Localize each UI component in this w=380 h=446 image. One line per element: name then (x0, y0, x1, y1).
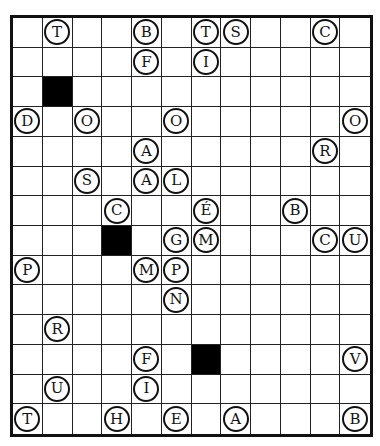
grid-cell[interactable] (162, 77, 192, 107)
grid-cell[interactable] (221, 137, 251, 167)
grid-cell[interactable] (251, 315, 281, 345)
grid-cell[interactable] (281, 18, 311, 48)
grid-cell[interactable] (311, 375, 341, 405)
grid-cell[interactable] (43, 285, 73, 315)
grid-cell[interactable]: T (13, 404, 43, 434)
grid-cell[interactable] (251, 256, 281, 286)
grid-cell[interactable] (221, 77, 251, 107)
grid-cell[interactable] (73, 404, 103, 434)
grid-cell[interactable] (281, 375, 311, 405)
grid-cell[interactable] (132, 404, 162, 434)
grid-cell[interactable] (221, 226, 251, 256)
grid-cell[interactable] (281, 404, 311, 434)
grid-cell[interactable]: B (281, 196, 311, 226)
grid-cell[interactable] (102, 137, 132, 167)
grid-cell[interactable]: I (192, 48, 222, 78)
grid-cell[interactable] (192, 375, 222, 405)
grid-cell[interactable] (340, 285, 370, 315)
grid-cell[interactable]: I (132, 375, 162, 405)
grid-cell[interactable] (73, 315, 103, 345)
grid-cell[interactable] (221, 48, 251, 78)
grid-cell[interactable] (43, 137, 73, 167)
grid-cell[interactable] (13, 345, 43, 375)
grid-cell[interactable] (251, 226, 281, 256)
grid-cell[interactable]: M (132, 256, 162, 286)
grid-cell[interactable] (73, 18, 103, 48)
grid-cell[interactable]: V (340, 345, 370, 375)
grid-cell[interactable] (162, 48, 192, 78)
grid-cell[interactable] (281, 315, 311, 345)
grid-cell[interactable] (221, 107, 251, 137)
grid-cell[interactable] (73, 77, 103, 107)
grid-cell[interactable] (311, 404, 341, 434)
grid-cell[interactable]: G (162, 226, 192, 256)
grid-cell[interactable]: E (162, 404, 192, 434)
grid-cell[interactable]: S (73, 167, 103, 197)
grid-cell[interactable]: H (102, 404, 132, 434)
grid-cell[interactable]: F (132, 48, 162, 78)
grid-cell[interactable] (221, 196, 251, 226)
grid-cell[interactable] (281, 107, 311, 137)
grid-cell[interactable]: P (13, 256, 43, 286)
grid-cell[interactable] (73, 285, 103, 315)
grid-cell[interactable] (132, 285, 162, 315)
grid-cell[interactable] (311, 196, 341, 226)
grid-cell[interactable]: C (311, 18, 341, 48)
grid-cell[interactable] (311, 167, 341, 197)
grid-cell[interactable]: B (340, 404, 370, 434)
grid-cell[interactable] (311, 315, 341, 345)
grid-cell[interactable] (43, 404, 73, 434)
grid-cell[interactable]: N (162, 285, 192, 315)
grid-cell[interactable] (132, 107, 162, 137)
grid-cell[interactable] (221, 167, 251, 197)
grid-cell[interactable] (221, 285, 251, 315)
grid-cell[interactable] (251, 345, 281, 375)
grid-cell[interactable]: O (340, 107, 370, 137)
grid-cell[interactable] (281, 48, 311, 78)
grid-cell[interactable] (132, 226, 162, 256)
grid-cell[interactable] (162, 137, 192, 167)
grid-cell[interactable] (192, 77, 222, 107)
grid-cell[interactable]: O (73, 107, 103, 137)
grid-cell[interactable] (221, 375, 251, 405)
grid-cell[interactable] (102, 167, 132, 197)
grid-cell[interactable] (251, 137, 281, 167)
grid-cell[interactable] (192, 404, 222, 434)
grid-cell[interactable] (221, 315, 251, 345)
grid-cell[interactable]: D (13, 107, 43, 137)
grid-cell[interactable] (132, 196, 162, 226)
grid-cell[interactable]: A (221, 404, 251, 434)
grid-cell[interactable] (102, 18, 132, 48)
grid-cell[interactable] (311, 107, 341, 137)
grid-cell[interactable]: A (132, 137, 162, 167)
grid-cell[interactable]: P (162, 256, 192, 286)
grid-cell[interactable] (311, 77, 341, 107)
grid-cell[interactable] (311, 256, 341, 286)
grid-cell[interactable] (102, 315, 132, 345)
grid-cell[interactable] (340, 18, 370, 48)
grid-cell[interactable] (192, 285, 222, 315)
grid-cell[interactable] (311, 285, 341, 315)
grid-cell[interactable]: C (311, 226, 341, 256)
grid-cell[interactable] (102, 285, 132, 315)
grid-cell[interactable] (340, 48, 370, 78)
grid-cell[interactable] (13, 77, 43, 107)
grid-cell[interactable] (13, 137, 43, 167)
grid-cell[interactable] (73, 48, 103, 78)
grid-cell[interactable] (102, 77, 132, 107)
grid-cell[interactable] (311, 345, 341, 375)
grid-cell[interactable]: B (132, 18, 162, 48)
grid-cell[interactable] (281, 167, 311, 197)
grid-cell[interactable] (73, 226, 103, 256)
grid-cell[interactable] (43, 345, 73, 375)
grid-cell[interactable] (73, 345, 103, 375)
grid-cell[interactable]: F (132, 345, 162, 375)
grid-cell[interactable]: É (192, 196, 222, 226)
grid-cell[interactable] (251, 196, 281, 226)
grid-cell[interactable] (281, 77, 311, 107)
grid-cell[interactable] (13, 48, 43, 78)
grid-cell[interactable] (281, 137, 311, 167)
grid-cell[interactable] (13, 18, 43, 48)
grid-cell[interactable] (311, 48, 341, 78)
grid-cell[interactable] (340, 196, 370, 226)
